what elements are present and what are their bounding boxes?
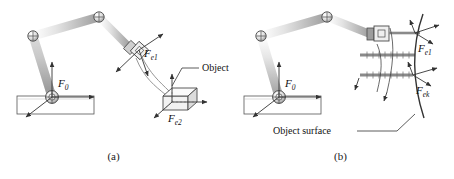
panel-a: F0 Fe1 bbox=[0, 0, 227, 179]
frame-Fe1-axes bbox=[410, 20, 439, 44]
manipulator-links bbox=[33, 17, 130, 97]
object-cube bbox=[163, 88, 197, 110]
panel-b-caption: (b) bbox=[227, 150, 454, 162]
figure-container: F0 Fe1 bbox=[0, 0, 454, 179]
frame-F0-label: F0 bbox=[284, 77, 296, 92]
object-callout-label: Object bbox=[202, 62, 229, 73]
frame-Fe1-label: Fe1 bbox=[143, 47, 158, 62]
wrist-housing bbox=[367, 26, 389, 41]
object-surface bbox=[415, 14, 424, 118]
manipulator-links bbox=[261, 17, 370, 97]
object-callout-leader bbox=[172, 68, 199, 86]
surface-callout-label: Object surface bbox=[273, 125, 332, 136]
panel-a-caption: (a) bbox=[0, 150, 227, 162]
surface-callout-leader bbox=[357, 114, 415, 131]
frame-F0-label: F0 bbox=[57, 77, 69, 92]
frame-Fek-label: Fek bbox=[415, 84, 430, 99]
frame-Fe2-label: Fe2 bbox=[167, 112, 182, 127]
frame-Fe1-label: Fe1 bbox=[417, 42, 432, 57]
panel-b: F0 bbox=[227, 0, 454, 179]
